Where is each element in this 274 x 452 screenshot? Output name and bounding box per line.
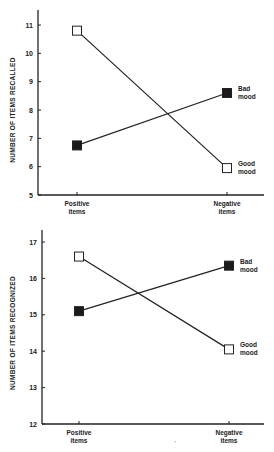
y-tick-label: 11: [26, 22, 34, 29]
open-square-marker: [75, 252, 84, 261]
x-category-label: Negative: [215, 429, 242, 437]
y-axis-title: NUMBER OF ITEMS RECOGNIZED: [9, 276, 16, 390]
legend-label: mood: [238, 168, 256, 175]
y-tick-label: 14: [29, 348, 37, 355]
legend-label: Good: [240, 341, 257, 348]
y-tick-label: 17: [29, 239, 37, 246]
x-category-label: Positive: [67, 429, 92, 436]
legend-label: mood: [238, 93, 256, 100]
x-category-label: items: [71, 437, 88, 444]
open-square-marker: [73, 26, 82, 35]
stray-mark: ˌ: [174, 435, 176, 443]
recognition-chart: 121314151617PositiveitemsNegativeitemsNU…: [9, 230, 264, 444]
y-tick-label: 15: [29, 311, 37, 318]
x-category-label: Negative: [213, 200, 240, 208]
x-category-label: Positive: [65, 200, 90, 207]
x-category-label: items: [221, 437, 238, 444]
series-line-good-mood: [77, 31, 227, 168]
y-tick-label: 12: [29, 421, 37, 428]
y-tick-label: 6: [29, 163, 33, 170]
legend-label: mood: [240, 266, 258, 273]
legend-label: Bad: [238, 85, 250, 92]
y-tick-label: 13: [29, 384, 37, 391]
filled-square-marker: [73, 141, 82, 150]
y-tick-label: 9: [29, 78, 33, 85]
y-axis-title: NUMBER OF ITEMS RECALLED: [9, 57, 16, 162]
y-tick-label: 7: [29, 135, 33, 142]
mood-memory-figure: 567891011PositiveitemsNegativeitemsNUMBE…: [0, 0, 274, 452]
series-line-bad-mood: [77, 93, 227, 145]
open-square-marker: [225, 345, 234, 354]
x-category-label: items: [69, 208, 86, 215]
y-tick-label: 16: [29, 275, 37, 282]
recall-chart: 567891011PositiveitemsNegativeitemsNUMBE…: [9, 10, 264, 215]
filled-square-marker: [225, 261, 234, 270]
series-line-bad-mood: [79, 266, 229, 312]
filled-square-marker: [223, 89, 232, 98]
x-category-label: items: [219, 208, 236, 215]
filled-square-marker: [75, 307, 84, 316]
legend-label: Good: [238, 160, 255, 167]
legend-label: Bad: [240, 258, 252, 265]
y-tick-label: 10: [25, 50, 33, 57]
legend-label: mood: [240, 349, 258, 356]
open-square-marker: [223, 164, 232, 173]
series-line-good-mood: [79, 257, 229, 350]
y-tick-label: 5: [29, 192, 33, 199]
y-tick-label: 8: [29, 107, 33, 114]
